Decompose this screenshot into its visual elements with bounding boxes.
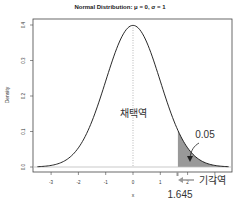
rejection-region-label: 기각역	[199, 175, 226, 186]
x-axis-label: x	[132, 192, 135, 198]
acceptance-region-label: 채택역	[120, 108, 147, 119]
y-axis: 0.00.10.20.30.4	[21, 21, 33, 170]
svg-text:-1: -1	[104, 180, 108, 185]
y-axis-label: Density	[4, 86, 10, 103]
svg-text:-2: -2	[76, 180, 80, 185]
svg-text:0.4: 0.4	[21, 21, 26, 28]
svg-text:0: 0	[132, 180, 135, 185]
normal-distribution-chart: -3-2-10123 0.00.10.20.30.4 x Density 채택역…	[0, 0, 240, 212]
svg-text:0.2: 0.2	[21, 92, 26, 99]
svg-text:0.3: 0.3	[21, 57, 26, 64]
svg-text:0.1: 0.1	[21, 128, 26, 135]
tail-area-label: 0.05	[195, 129, 215, 140]
x-axis: -3-2-10123	[49, 172, 217, 185]
svg-text:-3: -3	[49, 180, 53, 185]
svg-text:0.0: 0.0	[21, 163, 26, 170]
arrow-left-icon	[178, 177, 183, 183]
svg-text:1: 1	[159, 180, 162, 185]
plot-frame	[33, 19, 232, 172]
critical-value-label: 1.645	[167, 189, 192, 200]
